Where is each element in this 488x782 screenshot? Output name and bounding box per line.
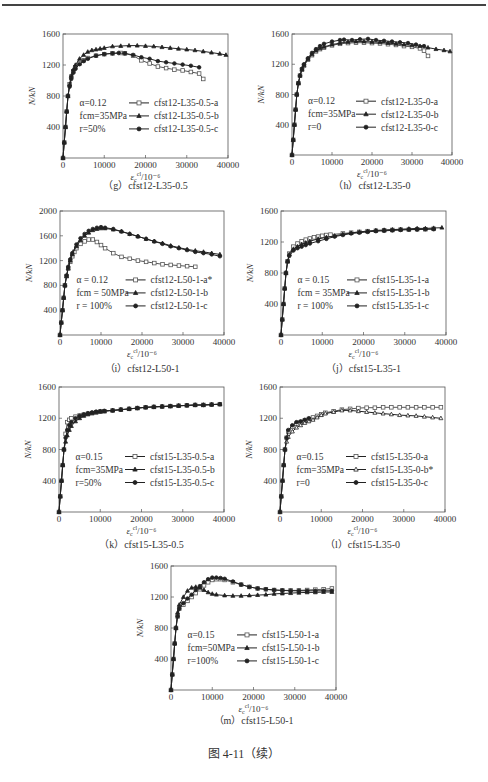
legend-entry: cfst12-L50-1-a* [151, 275, 213, 285]
legend-entry: cfst15-L35-0.5-b [150, 465, 215, 475]
parameter-annotations: α = 0.15fcm = 35MPar = 100% [298, 275, 351, 311]
x-tick-label: 30000 [172, 337, 195, 347]
legend: cfst15-L35-1-acfst15-L35-1-bcfst15-L35-1… [347, 275, 430, 311]
x-tick-label: 10000 [310, 514, 333, 524]
y-tick-label: 1600 [260, 206, 279, 216]
parameter-annotations: α=0.15fcm=35MPar=0 [297, 452, 345, 488]
chart-svg-l: 01000020000300004000040080012001600N/kNε… [240, 377, 465, 552]
annotation-text: fcm=35MPa [76, 465, 124, 475]
x-tick-label: 20000 [130, 514, 153, 524]
chart-caption-k: （k）cfst15-L35-0.5 [59, 536, 224, 551]
annotation-text: r = 100% [76, 301, 112, 311]
y-tick-label: 1200 [150, 592, 169, 602]
x-tick-label: 0 [57, 514, 62, 524]
chart-svg-i: 010000200003000040000400800120016002000N… [20, 201, 244, 375]
chart-caption-l: （l）cfst15-L35-0 [280, 536, 445, 551]
chart-svg-j: 01000020000300004000040080012001600N/kNε… [241, 201, 466, 375]
legend-entry: cfst12-L50-1-b [151, 288, 209, 298]
x-tick-label: 30000 [394, 337, 417, 347]
annotation-text: r=0 [297, 478, 311, 488]
legend: cfst15-L35-0-acfst15-L35-0-b*cfst15-L35-… [346, 452, 434, 488]
x-tick-label: 20000 [134, 160, 157, 170]
y-tick-label: 400 [43, 476, 57, 486]
y-axis-label: N/kN [256, 84, 266, 104]
chart-caption-j: （j）cfst15-L35-1 [281, 360, 446, 375]
y-tick-label: 800 [47, 91, 61, 101]
annotation-text: fcm=35MPa [297, 465, 345, 475]
chart-m: 01000020000300004000040080012001600N/kNε… [131, 556, 356, 730]
y-tick-label: 400 [265, 299, 279, 309]
legend-entry: cfst15-L35-0.5-c [150, 478, 214, 488]
annotation-text: fcm=35MPa [80, 111, 128, 121]
annotation-text: fcm = 50MPa [76, 288, 129, 298]
legend-entry: cfst15-L35-0-c [371, 478, 428, 488]
legend-entry: cfst12-L35-0.5-b [154, 111, 219, 121]
annotation-text: r=50% [76, 478, 102, 488]
chart-i: 010000200003000040000400800120016002000N… [20, 201, 244, 375]
x-tick-label: 40000 [441, 157, 464, 167]
chart-j: 01000020000300004000040080012001600N/kNε… [241, 201, 466, 375]
legend-entry: cfst12-L50-1-c [151, 301, 208, 311]
chart-svg-h: 01000020000300004000040080012001600N/kNε… [252, 24, 472, 195]
page-header-rule [2, 4, 486, 6]
legend: cfst12-L50-1-a*cfst12-L50-1-bcfst12-L50-… [126, 275, 213, 311]
annotation-text: α=0.15 [188, 630, 215, 640]
y-tick-label: 400 [44, 305, 58, 315]
y-axis-label: N/kN [24, 263, 34, 283]
legend-entry: cfst15-L50-1-b [262, 643, 320, 653]
chart-g: 01000020000300004000040080012001600N/kNε… [23, 24, 248, 198]
y-tick-label: 800 [43, 445, 57, 455]
y-tick-label: 1600 [39, 231, 58, 241]
legend-entry: cfst15-L50-1-a [262, 630, 320, 640]
annotation-text: α=0.15 [76, 452, 103, 462]
legend: cfst12-L35-0-acfst12-L35-0-bcfst12-L35-0… [356, 97, 439, 133]
y-tick-label: 400 [264, 476, 278, 486]
y-tick-label: 1600 [150, 561, 169, 571]
x-tick-label: 0 [58, 337, 63, 347]
legend: cfst15-L35-0.5-acfst15-L35-0.5-bcfst15-L… [125, 452, 215, 488]
annotation-text: α=0.12 [308, 96, 335, 106]
x-tick-label: 30000 [284, 692, 307, 702]
x-tick-label: 40000 [435, 337, 458, 347]
plot-frame [60, 211, 224, 335]
x-tick-label: 0 [61, 160, 66, 170]
chart-caption-h: （h）cfst12-L35-0 [292, 177, 452, 192]
annotation-text: α = 0.15 [298, 275, 330, 285]
y-tick-label: 800 [155, 623, 169, 633]
y-tick-label: 400 [155, 654, 169, 664]
annotation-text: fcm=35MPa [308, 109, 356, 119]
y-tick-label: 1200 [39, 256, 58, 266]
x-tick-label: 30000 [176, 160, 199, 170]
annotation-text: r=50% [80, 124, 106, 134]
y-axis-label: N/kN [27, 86, 37, 106]
annotation-text: r=100% [188, 656, 219, 666]
y-tick-label: 1200 [42, 60, 61, 70]
legend-entry: cfst15-L35-0.5-a [150, 452, 215, 462]
legend-entry: cfst12-L35-0.5-c [154, 124, 218, 134]
y-tick-label: 800 [265, 268, 279, 278]
legend-entry: cfst15-L35-0-b* [371, 465, 434, 475]
chart-caption-m: （m）cfst15-L50-1 [171, 712, 336, 727]
plot-frame [280, 387, 445, 512]
x-tick-label: 40000 [213, 514, 236, 524]
chart-l: 01000020000300004000040080012001600N/kNε… [240, 377, 465, 552]
x-tick-label: 0 [278, 514, 283, 524]
x-tick-label: 40000 [434, 514, 457, 524]
y-axis-label: N/kN [135, 618, 145, 638]
x-tick-label: 10000 [89, 514, 112, 524]
x-tick-label: 30000 [401, 157, 424, 167]
legend-entry: cfst15-L50-1-c [262, 656, 319, 666]
legend-entry: cfst15-L35-1-b [372, 288, 430, 298]
y-tick-label: 1200 [259, 413, 278, 423]
y-tick-label: 2000 [39, 206, 58, 216]
x-tick-label: 20000 [131, 337, 154, 347]
figure-caption: 图 4-11（续） [0, 744, 488, 762]
y-tick-label: 1200 [38, 413, 57, 423]
chart-caption-g: （g）cfst12-L35-0.5 [63, 177, 228, 192]
annotation-text: r = 100% [298, 301, 334, 311]
annotation-text: fcm = 35MPa [298, 288, 351, 298]
x-tick-label: 40000 [213, 337, 236, 347]
chart-svg-m: 01000020000300004000040080012001600N/kNε… [131, 556, 356, 730]
legend-entry: cfst12-L35-0.5-a [154, 98, 219, 108]
chart-h: 01000020000300004000040080012001600N/kNε… [252, 24, 472, 195]
